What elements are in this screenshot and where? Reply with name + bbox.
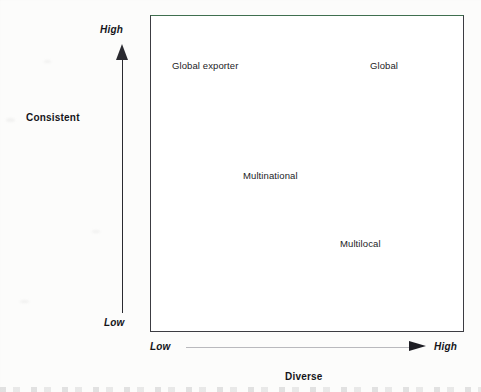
scan-artifact [6,118,15,122]
y-axis-high-label: High [100,24,123,35]
x-axis-title: Diverse [285,371,323,382]
scan-artifact [92,230,100,233]
y-axis-low-label: Low [104,317,125,328]
y-axis-title: Consistent [26,112,80,123]
x-axis-low-label: Low [150,341,171,352]
matrix-box: Global exporter Global Multinational Mul… [150,15,464,332]
cell-global-exporter: Global exporter [172,60,238,71]
scan-artifact [20,300,29,303]
y-axis-arrow-shaft [122,57,123,313]
x-axis-high-label: High [434,341,457,352]
diagram-page: Consistent High Low Global exporter Glob… [0,0,481,392]
x-axis-arrow-icon [409,341,426,351]
cell-multilocal: Multilocal [340,238,381,249]
cell-global: Global [370,60,398,71]
scan-artifact [44,60,51,63]
cell-multinational: Multinational [243,170,298,181]
x-axis-arrow-shaft [186,347,414,348]
page-bleed-text [0,387,481,392]
